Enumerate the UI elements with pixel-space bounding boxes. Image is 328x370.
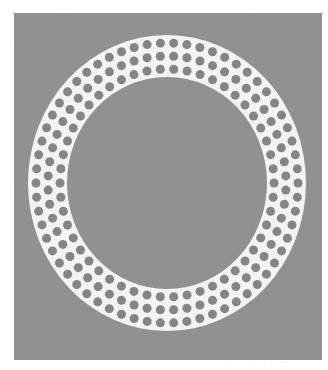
hole [208,296,217,305]
hole [156,39,165,48]
hole [231,75,240,84]
hole [63,137,72,146]
hole [277,246,286,255]
hole [220,290,229,299]
hole [74,94,83,103]
hole [195,314,204,323]
hole [56,193,65,202]
hole [269,164,278,173]
hole [94,266,103,275]
hole [260,105,269,114]
hole [287,137,296,146]
hole [48,111,57,120]
hole [55,99,64,108]
hole [251,263,260,272]
hole [156,292,165,301]
hole [277,111,286,120]
hole [294,179,303,188]
hole [169,318,178,327]
hole [169,52,178,61]
hole [220,275,229,284]
hole [208,61,217,70]
hole [129,287,138,296]
hole [195,56,204,65]
photo [0,0,328,370]
hole [232,297,241,306]
hole [156,52,165,61]
hole [105,53,114,62]
hole [63,270,72,279]
hole [242,273,251,282]
hole [283,234,292,243]
faint-caption: · · · · · · · · · · · [230,359,290,365]
hole [130,301,139,310]
hole [281,186,290,195]
hole [93,297,102,306]
hole [220,53,229,62]
hole [277,143,286,152]
hole [220,82,229,91]
hole [44,171,53,180]
hole [293,193,302,202]
hole [220,67,229,76]
hole [272,227,281,236]
hole [55,258,64,267]
hole [143,304,152,313]
hole [63,87,72,96]
hole [48,214,57,223]
hole [117,282,126,291]
hole [117,47,126,56]
hole [220,304,229,313]
hole [94,75,103,84]
hole [105,290,114,299]
hole [253,280,262,289]
hole [287,220,296,229]
hole [293,164,302,173]
hole [262,270,271,279]
hole [156,305,165,314]
hole [83,84,92,93]
hole [249,111,258,120]
hole [65,252,74,261]
hole [117,61,126,70]
hole [169,39,178,48]
hole [142,290,151,299]
hole [270,99,279,108]
hole [65,105,74,114]
hole [232,60,241,69]
hole [143,317,152,326]
hole [48,246,57,255]
hole [48,143,57,152]
hole [195,43,204,52]
hole [94,282,103,291]
hole [262,220,271,229]
hole [266,207,275,216]
hole [183,290,192,299]
hole [269,193,278,202]
hole [63,220,72,229]
hole [44,186,53,195]
hole [53,227,62,236]
hole [59,150,68,159]
hole [32,179,41,188]
hole [74,263,83,272]
hole [241,100,250,109]
hole [117,310,126,319]
hole [283,123,292,132]
hole [105,275,114,284]
hole [260,252,269,261]
hole [85,100,94,109]
hole [34,207,43,216]
hole [83,273,92,282]
hole [196,70,205,79]
hole [208,75,217,84]
hole [105,67,114,76]
hole [129,70,138,79]
hole [208,47,217,56]
hole [291,207,300,216]
hole [58,117,67,126]
hole [34,150,43,159]
hole [253,77,262,86]
hole [249,246,258,255]
hole [56,179,65,188]
